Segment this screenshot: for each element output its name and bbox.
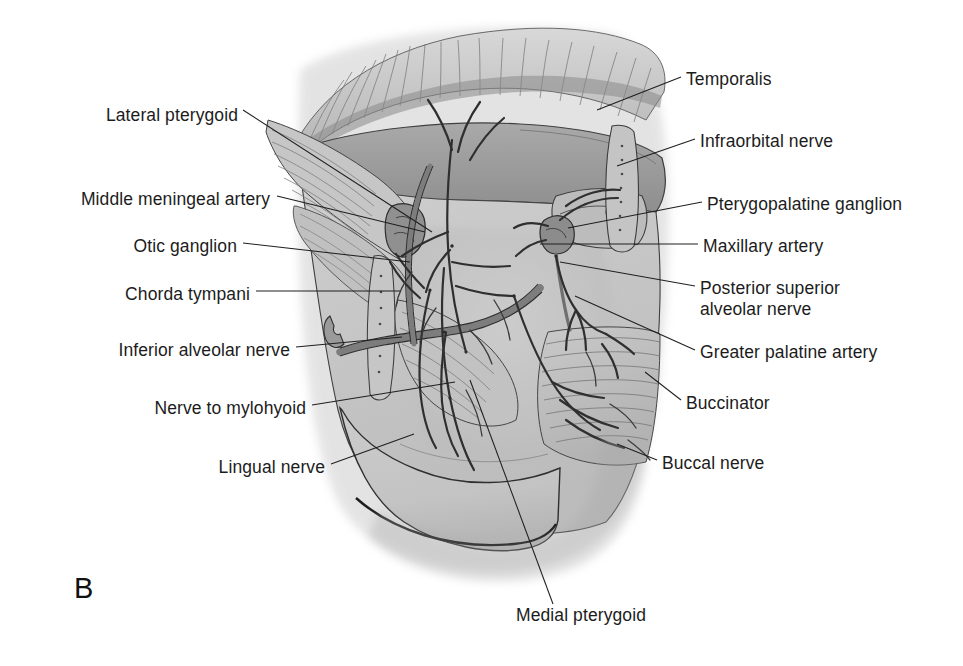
label-posterior-superior-alveolar-nerve: Posterior superior alveolar nerve [700,278,840,320]
label-otic-ganglion: Otic ganglion [134,236,237,257]
label-maxillary-artery: Maxillary artery [703,236,823,257]
pterygopalatine-ganglion [540,216,574,254]
label-pterygopalatine-ganglion: Pterygopalatine ganglion [707,194,902,215]
label-temporalis: Temporalis [686,69,772,90]
infratemporal-fossa-illustration [0,0,963,666]
label-nerve-to-mylohyoid: Nerve to mylohyoid [154,398,306,419]
label-buccal-nerve: Buccal nerve [662,453,764,474]
label-lateral-pterygoid: Lateral pterygoid [106,105,238,126]
label-medial-pterygoid: Medial pterygoid [516,605,646,626]
panel-letter: B [74,572,93,605]
label-infraorbital-nerve: Infraorbital nerve [700,131,833,152]
label-lingual-nerve: Lingual nerve [219,457,325,478]
otic-ganglion [385,204,425,257]
label-middle-meningeal-artery: Middle meningeal artery [81,189,270,210]
label-inferior-alveolar-nerve: Inferior alveolar nerve [118,340,290,361]
buccinator-muscle [538,327,660,465]
label-chorda-tympani: Chorda tympani [125,284,250,305]
label-greater-palatine-artery: Greater palatine artery [700,342,877,363]
anatomical-figure: Lateral pterygoidMiddle meningeal artery… [0,0,963,666]
label-buccinator: Buccinator [686,393,770,414]
